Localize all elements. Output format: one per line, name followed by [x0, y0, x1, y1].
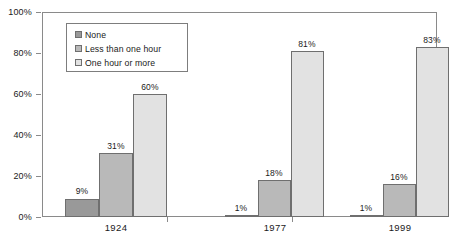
bar-1999-none[interactable]	[350, 215, 383, 217]
bar-1977-one-hour-or-more[interactable]	[291, 51, 324, 217]
bar-label-1977-none: 1%	[235, 203, 248, 213]
bar-label-1924-none: 9%	[76, 186, 89, 196]
x-tick-label-1924: 1924	[105, 222, 128, 233]
y-tick-mark-40	[36, 135, 41, 136]
y-tick-mark-100	[36, 12, 41, 13]
y-tick-mark-0	[36, 217, 41, 218]
bar-1924-less-than-one-hour[interactable]	[99, 153, 133, 217]
bar-label-1977-less-than-one-hour: 18%	[265, 168, 283, 178]
bar-1977-less-than-one-hour[interactable]	[258, 180, 291, 217]
bar-1924-none[interactable]	[65, 199, 99, 217]
bar-chart: 100% 80% 60% 40% 20% 0% 9% 31% 60% 1% 18…	[0, 0, 455, 252]
y-tick-mark-60	[36, 94, 41, 95]
bar-1977-none[interactable]	[225, 215, 258, 217]
legend: None Less than one hour One hour or more	[66, 23, 188, 72]
legend-swatch-icon-one-hour-or-more	[75, 59, 82, 66]
legend-item-less-than-one-hour[interactable]: Less than one hour	[75, 42, 181, 55]
legend-label-none: None	[85, 30, 106, 40]
legend-item-none[interactable]: None	[75, 28, 181, 41]
legend-label-one-hour-or-more: One hour or more	[85, 58, 155, 68]
y-axis: 100% 80% 60% 40% 20% 0%	[0, 0, 42, 252]
y-tick-mark-80	[36, 53, 41, 54]
legend-swatch-icon-none	[75, 31, 82, 38]
x-tick-label-1999: 1999	[389, 222, 412, 233]
bar-label-1999-less-than-one-hour: 16%	[390, 172, 408, 182]
bar-label-1999-none: 1%	[360, 203, 373, 213]
legend-swatch-icon-less-than-one-hour	[75, 45, 82, 52]
legend-label-less-than-one-hour: Less than one hour	[85, 44, 161, 54]
bar-1999-one-hour-or-more[interactable]	[416, 47, 449, 217]
bar-label-1977-one-hour-or-more: 81%	[298, 39, 316, 49]
bar-label-1999-one-hour-or-more: 83%	[423, 35, 441, 45]
y-tick-label-40: 40%	[13, 130, 32, 140]
y-tick-label-60: 60%	[13, 89, 32, 99]
y-tick-mark-20	[36, 176, 41, 177]
y-tick-label-100: 100%	[8, 7, 32, 17]
bar-1999-less-than-one-hour[interactable]	[383, 184, 416, 217]
x-axis: 1924 1977 1999	[0, 222, 455, 242]
y-tick-label-20: 20%	[13, 171, 32, 181]
y-tick-label-80: 80%	[13, 48, 32, 58]
y-tick-label-0: 0%	[19, 212, 32, 222]
bar-1924-one-hour-or-more[interactable]	[133, 94, 167, 217]
x-tick-label-1977: 1977	[264, 222, 287, 233]
bar-label-1924-less-than-one-hour: 31%	[107, 141, 125, 151]
legend-item-one-hour-or-more[interactable]: One hour or more	[75, 56, 181, 69]
bar-label-1924-one-hour-or-more: 60%	[141, 82, 159, 92]
